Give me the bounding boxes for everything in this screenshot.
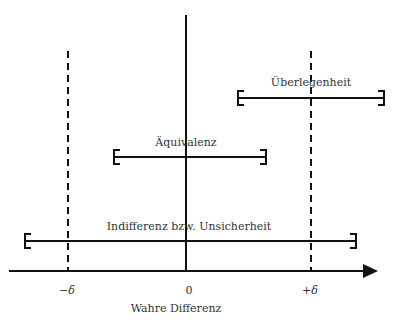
axis-label: Wahre Differenz	[131, 302, 222, 315]
interval-label: Überlegenheit	[271, 75, 352, 89]
interval-label: Indifferenz bzw. Unsicherheit	[107, 220, 272, 233]
tick-minus-delta: −δ	[59, 284, 75, 297]
tick-zero: 0	[186, 284, 193, 297]
axis-arrow-icon	[363, 264, 378, 278]
interval-indifference: Indifferenz bzw. Unsicherheit	[25, 220, 356, 248]
tick-plus-delta: +δ	[302, 284, 318, 297]
equivalence-diagram: Überlegenheit Äquivalenz Indifferenz bzw…	[0, 0, 399, 326]
interval-label: Äquivalenz	[154, 135, 216, 149]
interval-equivalence: Äquivalenz	[114, 135, 266, 164]
